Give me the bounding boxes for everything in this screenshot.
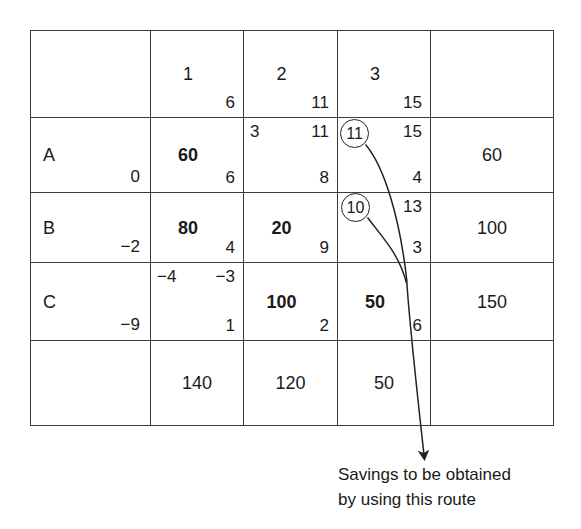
cell-a2-top-right: 11 bbox=[311, 123, 329, 140]
cell-c3: 50 6 bbox=[338, 263, 431, 341]
header-cell-supply bbox=[431, 31, 554, 118]
table-row-b: B −2 80 4 20 9 13 bbox=[31, 193, 554, 263]
row-b-supply: 100 bbox=[431, 219, 553, 237]
table-row-c: C −9 −4 −3 1 100 2 50 bbox=[31, 263, 554, 341]
cell-a2-cost: 8 bbox=[320, 169, 329, 186]
cell-b1-cost: 4 bbox=[226, 239, 235, 256]
row-c-header: C −9 bbox=[31, 263, 151, 341]
demand-1-value: 140 bbox=[151, 374, 243, 392]
transportation-tableau: 1 6 2 11 3 15 A 0 bbox=[30, 30, 554, 426]
cell-a1-allocation: 60 bbox=[142, 146, 234, 164]
cell-c-supply: 150 bbox=[431, 263, 554, 341]
row-b-label: B bbox=[43, 219, 55, 237]
cell-c1-top-left: −4 bbox=[157, 268, 176, 285]
cell-b2: 20 9 bbox=[244, 193, 338, 263]
table-demand-row: 140 120 50 bbox=[31, 341, 554, 426]
cell-b1-allocation: 80 bbox=[142, 219, 234, 237]
demand-3-value: 50 bbox=[338, 374, 430, 392]
cell-a3-cost: 4 bbox=[413, 169, 422, 186]
cell-b3-cost: 3 bbox=[413, 239, 422, 256]
cell-c2: 100 2 bbox=[244, 263, 338, 341]
annotation-caption-line-2: by using this route bbox=[338, 488, 511, 513]
cell-a1: 60 6 bbox=[151, 118, 244, 193]
row-c-supply: 150 bbox=[431, 293, 553, 311]
annotation-caption-line-1: Savings to be obtained bbox=[338, 463, 511, 488]
row-a-supply: 60 bbox=[431, 146, 553, 164]
cell-a2: 3 11 8 bbox=[244, 118, 338, 193]
demand-row-header bbox=[31, 341, 151, 426]
circled-value-b3-text: 10 bbox=[347, 200, 365, 216]
dest-1-index: 1 bbox=[142, 65, 234, 83]
dest-2-dual: 11 bbox=[311, 94, 329, 111]
table-row-a: A 0 60 6 3 11 8 15 bbox=[31, 118, 554, 193]
demand-cell-3: 50 bbox=[338, 341, 431, 426]
header-cell-dest-3: 3 15 bbox=[338, 31, 431, 118]
cell-b1: 80 4 bbox=[151, 193, 244, 263]
header-cell-dest-1: 1 6 bbox=[151, 31, 244, 118]
cell-a3-top-right: 15 bbox=[403, 123, 422, 140]
row-b-dual: −2 bbox=[121, 238, 140, 255]
row-a-label: A bbox=[43, 146, 55, 164]
annotation-caption: Savings to be obtained by using this rou… bbox=[338, 463, 511, 512]
demand-cell-2: 120 bbox=[244, 341, 338, 426]
table-header-row: 1 6 2 11 3 15 bbox=[31, 31, 554, 118]
cell-c1-top-right: −3 bbox=[216, 268, 235, 285]
circled-value-b3: 10 bbox=[341, 193, 370, 222]
row-a-header: A 0 bbox=[31, 118, 151, 193]
cell-c1: −4 −3 1 bbox=[151, 263, 244, 341]
cell-a1-cost: 6 bbox=[226, 169, 235, 186]
dest-1-dual: 6 bbox=[226, 94, 235, 111]
cell-a2-top-left: 3 bbox=[250, 123, 259, 140]
cell-b2-cost: 9 bbox=[320, 239, 329, 256]
cell-b2-allocation: 20 bbox=[235, 219, 328, 237]
circled-value-a3: 11 bbox=[340, 119, 369, 148]
cell-a-supply: 60 bbox=[431, 118, 554, 193]
row-b-header: B −2 bbox=[31, 193, 151, 263]
circled-value-a3-text: 11 bbox=[346, 126, 363, 142]
row-c-dual: −9 bbox=[121, 316, 140, 333]
cell-c1-cost: 1 bbox=[226, 317, 235, 334]
dest-2-index: 2 bbox=[235, 65, 328, 83]
demand-cell-1: 140 bbox=[151, 341, 244, 426]
cell-c2-cost: 2 bbox=[320, 317, 329, 334]
cell-c2-allocation: 100 bbox=[235, 293, 328, 311]
cell-b3-top-right: 13 bbox=[403, 198, 422, 215]
transportation-tableau-figure: 1 6 2 11 3 15 A 0 bbox=[0, 0, 581, 529]
row-a-dual: 0 bbox=[131, 168, 140, 185]
dest-3-index: 3 bbox=[329, 65, 421, 83]
demand-corner-cell bbox=[431, 341, 554, 426]
row-c-label: C bbox=[43, 293, 56, 311]
header-cell-dest-2: 2 11 bbox=[244, 31, 338, 118]
cell-c3-cost: 6 bbox=[413, 317, 422, 334]
dest-3-dual: 15 bbox=[403, 94, 422, 111]
cell-c3-allocation: 50 bbox=[329, 293, 421, 311]
cell-b-supply: 100 bbox=[431, 193, 554, 263]
demand-2-value: 120 bbox=[244, 374, 337, 392]
corner-cell bbox=[31, 31, 151, 118]
